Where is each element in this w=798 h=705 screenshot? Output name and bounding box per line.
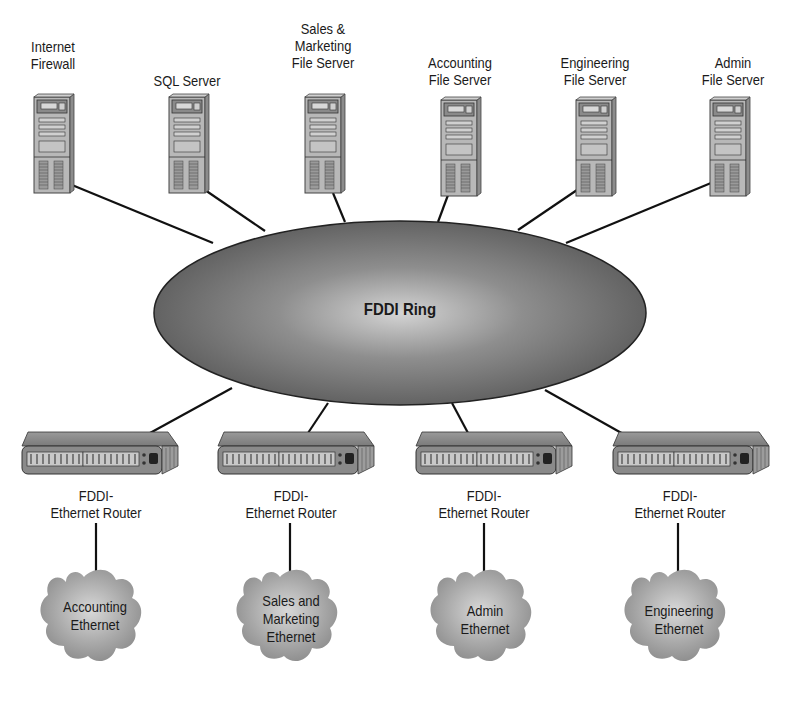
router-label-4: FDDI- Ethernet Router [620, 487, 740, 521]
server-icon-sql-server [169, 94, 209, 193]
network-label-sales-marketing: Sales and Marketing Ethernet [244, 592, 339, 646]
server-icon-accounting [441, 97, 481, 196]
router-icon-2 [218, 432, 374, 474]
router-label-1: FDDI- Ethernet Router [36, 487, 156, 521]
ethernet-links [96, 523, 678, 575]
router-icon-3 [416, 432, 572, 474]
server-label-sales-marketing: Sales & Marketing File Server [276, 20, 371, 71]
server-label-sql-server: SQL Server [144, 72, 230, 89]
router-icon-4 [613, 432, 769, 474]
server-icon-engineering [576, 97, 616, 196]
router-label-2: FDDI- Ethernet Router [231, 487, 351, 521]
server-icon-sales-marketing [305, 94, 345, 193]
server-icon-admin [710, 97, 750, 196]
server-label-admin: Admin File Server [690, 54, 776, 88]
ethernet-clouds [41, 570, 726, 661]
network-label-engineering: Engineering Ethernet [632, 602, 727, 638]
server-icon-internet-firewall [34, 94, 74, 193]
router-label-3: FDDI- Ethernet Router [424, 487, 544, 521]
server-label-engineering: Engineering File Server [548, 54, 643, 88]
network-label-accounting: Accounting Ethernet [48, 598, 143, 634]
network-label-admin: Admin Ethernet [438, 602, 533, 638]
server-label-internet-firewall: Internet Firewall [23, 38, 83, 72]
ring-label: FDDI Ring [312, 300, 488, 320]
server-label-accounting: Accounting File Server [413, 54, 508, 88]
router-icon-1 [22, 432, 178, 474]
